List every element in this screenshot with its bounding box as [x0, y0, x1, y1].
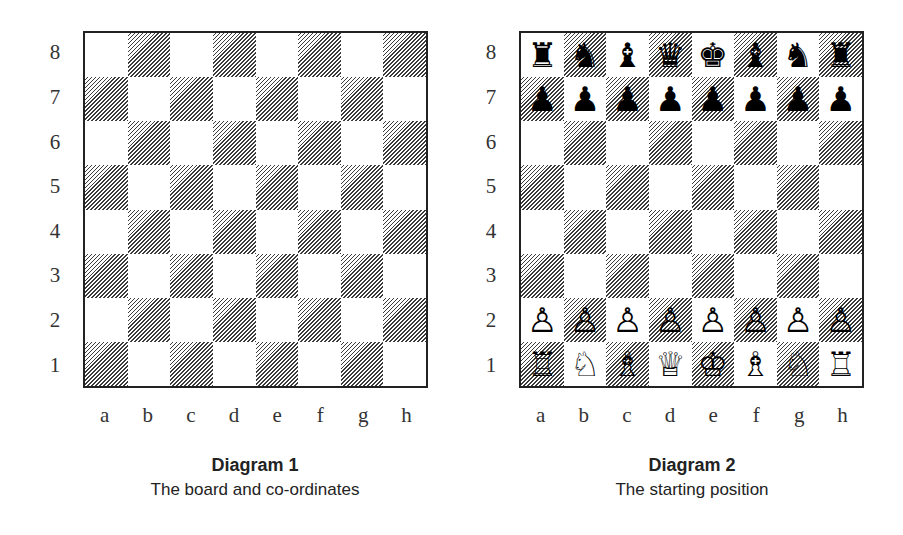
white-pawn-icon: ♙	[570, 303, 600, 337]
white-bishop-icon: ♗	[740, 347, 770, 381]
file-label: d	[660, 403, 680, 428]
square-a8: ♜	[521, 33, 564, 77]
rank-label: 3	[45, 263, 65, 288]
square-h6	[819, 121, 862, 165]
square-h8: ♜	[819, 33, 862, 77]
file-label: c	[617, 403, 637, 428]
square-e6	[692, 121, 735, 165]
file-label: g	[789, 403, 809, 428]
white-pawn-icon: ♙	[698, 303, 728, 337]
white-pawn-icon: ♙	[740, 303, 770, 337]
square-f8	[298, 33, 341, 77]
square-a3	[521, 254, 564, 298]
rank-label: 4	[45, 219, 65, 244]
square-e5	[256, 165, 299, 209]
white-pawn-icon: ♙	[612, 303, 642, 337]
square-b1	[128, 342, 171, 386]
square-f4	[298, 210, 341, 254]
square-h7: ♟	[819, 77, 862, 121]
black-rook-icon: ♜	[825, 38, 855, 72]
square-b6	[128, 121, 171, 165]
square-f1	[298, 342, 341, 386]
square-e7: ♟	[692, 77, 735, 121]
white-pawn-icon: ♙	[527, 303, 557, 337]
square-d7: ♟	[649, 77, 692, 121]
black-pawn-icon: ♟	[783, 82, 813, 116]
black-queen-icon: ♛	[655, 38, 685, 72]
square-a5	[521, 165, 564, 209]
square-f4	[734, 210, 777, 254]
square-d4	[213, 210, 256, 254]
black-king-icon: ♚	[698, 38, 728, 72]
black-pawn-icon: ♟	[655, 82, 685, 116]
chessboard: ♜♞♝♛♚♝♞♜♟♟♟♟♟♟♟♟♙♙♙♙♙♙♙♙♖♘♗♕♔♗♘♖	[519, 31, 864, 388]
square-a7: ♟	[521, 77, 564, 121]
square-b3	[128, 254, 171, 298]
square-g3	[777, 254, 820, 298]
square-g4	[777, 210, 820, 254]
square-e4	[256, 210, 299, 254]
file-label: h	[396, 403, 416, 428]
square-c1	[170, 342, 213, 386]
square-g1	[341, 342, 384, 386]
diagram-subtitle: The starting position	[512, 480, 872, 500]
square-a3	[85, 254, 128, 298]
square-f1: ♗	[734, 342, 777, 386]
rank-label: 2	[45, 308, 65, 333]
square-f2	[298, 298, 341, 342]
square-c2	[170, 298, 213, 342]
square-c6	[170, 121, 213, 165]
diagram-title: Diagram 1	[75, 455, 435, 476]
square-h5	[383, 165, 426, 209]
rank-label: 1	[45, 353, 65, 378]
square-b4	[564, 210, 607, 254]
square-c8	[170, 33, 213, 77]
square-g4	[341, 210, 384, 254]
square-f7: ♟	[734, 77, 777, 121]
square-g5	[341, 165, 384, 209]
square-d6	[649, 121, 692, 165]
rank-label: 8	[481, 40, 501, 65]
square-h4	[383, 210, 426, 254]
white-queen-icon: ♕	[655, 347, 685, 381]
square-a7	[85, 77, 128, 121]
square-c8: ♝	[606, 33, 649, 77]
black-pawn-icon: ♟	[612, 82, 642, 116]
square-c7: ♟	[606, 77, 649, 121]
square-e1: ♔	[692, 342, 735, 386]
rank-label: 7	[481, 85, 501, 110]
square-a6	[85, 121, 128, 165]
file-label: c	[181, 403, 201, 428]
square-g2	[341, 298, 384, 342]
square-f6	[734, 121, 777, 165]
square-f2: ♙	[734, 298, 777, 342]
rank-label: 6	[45, 130, 65, 155]
square-c1: ♗	[606, 342, 649, 386]
square-a2	[85, 298, 128, 342]
rank-label: 7	[45, 85, 65, 110]
square-d2: ♙	[649, 298, 692, 342]
square-h2: ♙	[819, 298, 862, 342]
square-h3	[383, 254, 426, 298]
square-e5	[692, 165, 735, 209]
black-bishop-icon: ♝	[612, 38, 642, 72]
square-g3	[341, 254, 384, 298]
square-h6	[383, 121, 426, 165]
rank-label: 6	[481, 130, 501, 155]
rank-label: 5	[45, 174, 65, 199]
square-b5	[564, 165, 607, 209]
square-g8	[341, 33, 384, 77]
square-e1	[256, 342, 299, 386]
square-b2	[128, 298, 171, 342]
diagram-subtitle: The board and co-ordinates	[75, 480, 435, 500]
file-label: b	[138, 403, 158, 428]
square-f8: ♝	[734, 33, 777, 77]
square-d8	[213, 33, 256, 77]
square-e3	[692, 254, 735, 298]
square-g8: ♞	[777, 33, 820, 77]
square-e6	[256, 121, 299, 165]
chessboard	[83, 31, 428, 388]
square-h1	[383, 342, 426, 386]
square-c4	[170, 210, 213, 254]
square-c5	[170, 165, 213, 209]
